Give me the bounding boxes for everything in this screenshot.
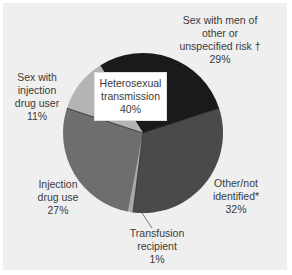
label-sex-with-men: Sex with men of other or unspecified ris… xyxy=(160,14,280,66)
label-sex-with-idu: Sex with injection drug user 11% xyxy=(8,71,66,123)
label-injection-drug-use: Injection drug use 27% xyxy=(28,178,88,217)
label-transfusion-recipient: Transfusion recipient 1% xyxy=(122,227,192,266)
transfusion-leader-line xyxy=(142,213,152,228)
label-heterosexual-transmission: Heterosexual transmission 40% xyxy=(94,72,167,121)
label-other-not-identified: Other/not identified* 32% xyxy=(203,177,269,216)
